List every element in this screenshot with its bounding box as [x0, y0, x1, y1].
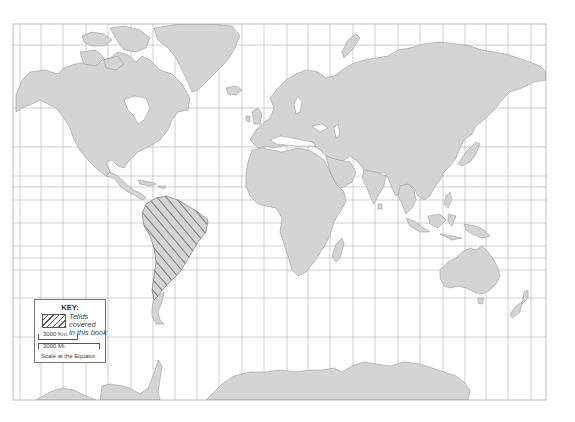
madagascar: [332, 238, 344, 262]
antarctica: [36, 388, 96, 400]
tasmania: [478, 298, 484, 304]
australia: [440, 246, 500, 294]
new-zealand: [510, 290, 528, 318]
key-legend-line1: Teiids covered: [69, 313, 107, 329]
scale-caption: Scale at the Equator.: [41, 353, 97, 359]
novaya-zemlya: [342, 34, 360, 58]
hatch-swatch-icon: [42, 314, 66, 328]
indochina: [398, 184, 416, 214]
iceland: [226, 86, 242, 95]
key-title: KEY:: [35, 303, 105, 312]
scale-km-label: 3000 Km.: [43, 331, 69, 337]
scale-mi-label: 3000 Mi.: [43, 343, 66, 349]
scale-bar-mi: 3000 Mi.: [38, 343, 100, 349]
british-isles: [246, 108, 262, 124]
north-america: [16, 52, 190, 176]
sri-lanka: [378, 204, 382, 209]
philippines: [444, 192, 452, 208]
indonesia: [406, 214, 462, 240]
map-key: KEY: Teiids covered in this book 3000 Km…: [34, 299, 106, 363]
caribbean-islands: [138, 180, 166, 189]
scale-bar-km: 3000 Km.: [38, 334, 78, 340]
antarctica-east: [206, 362, 470, 400]
